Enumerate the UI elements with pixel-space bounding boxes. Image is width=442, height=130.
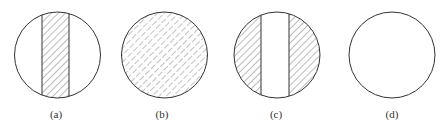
panel-label-b: (b)	[156, 108, 169, 121]
panel-label-c: (c)	[270, 108, 283, 121]
panel-c: (c)	[232, 10, 322, 121]
hatched-sides	[232, 10, 322, 102]
panel-b: (b)	[120, 10, 210, 121]
hatched-disc	[120, 10, 210, 102]
panel-label-d: (d)	[386, 108, 399, 121]
panel-a: (a)	[15, 10, 101, 121]
panel-label-a: (a)	[50, 108, 63, 121]
panel-d: (d)	[349, 12, 435, 121]
figure-canvas: (a) (b) (c) (d)	[0, 0, 442, 130]
circle-outline	[349, 12, 435, 98]
hatched-strip	[42, 10, 69, 102]
